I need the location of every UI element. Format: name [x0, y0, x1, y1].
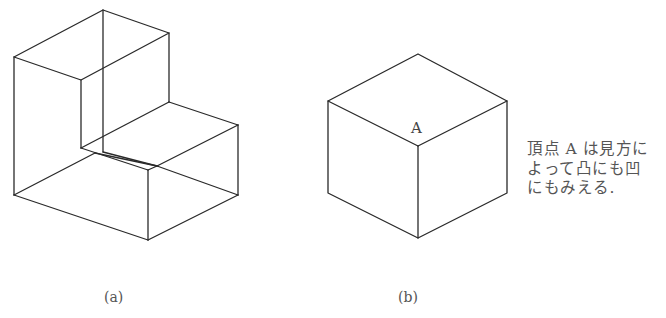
- figure-a-l-shaped-solid: [14, 10, 238, 240]
- note-line-3: にもみえる.: [527, 179, 666, 199]
- figure-b-cube: [328, 54, 507, 238]
- note-line-2: よって凸にも凹: [527, 160, 666, 180]
- note-line-1: 頂点 A は見方に: [527, 140, 666, 160]
- annotation-note: 頂点 A は見方に よって凸にも凹 にもみえる.: [527, 140, 666, 199]
- vertex-a-label: A: [411, 119, 422, 137]
- caption-a: (a): [104, 289, 123, 305]
- caption-b: (b): [398, 289, 418, 305]
